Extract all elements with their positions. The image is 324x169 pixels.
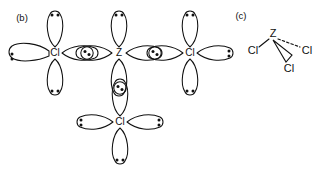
lone-pair-z-up <box>115 14 124 17</box>
atom-label-c-cl-right: Cl <box>302 44 312 56</box>
atom-label-c-cl-bottom: Cl <box>284 62 294 74</box>
bond-z-cl-left-plain <box>259 39 269 47</box>
bond-overlap-z-cl-right <box>149 47 161 59</box>
lobe-z-right-bonding <box>126 46 162 61</box>
atom-label-cl-right: Cl <box>185 47 194 58</box>
atom-cl-right: Cl <box>147 11 233 95</box>
figure-container: (b) Cl <box>0 0 324 169</box>
lone-pair-cl-right-right <box>228 50 231 58</box>
lobe-cl-left-up <box>47 11 62 47</box>
bond-overlap-z-cl-bottom <box>114 82 126 94</box>
lobe-cl-left-left <box>9 43 49 61</box>
lobe-cl-right-right <box>197 46 233 61</box>
panel-b-label: (b) <box>16 12 28 23</box>
lobe-cl-bottom-right <box>127 115 163 130</box>
atom-label-c-z: Z <box>270 27 277 39</box>
lobe-cl-bottom-down <box>112 128 127 164</box>
lobe-cl-bottom-left <box>77 115 113 130</box>
atom-label-cl-left: Cl <box>50 47 59 58</box>
atom-label-cl-bottom: Cl <box>115 116 124 127</box>
bond-overlap-cl-left-z <box>81 47 93 59</box>
atom-cl-left: Cl <box>9 11 98 95</box>
lobe-cl-left-down <box>47 59 62 95</box>
lone-pair-cl-right-down <box>186 90 195 93</box>
panel-c-group: (c) Z Cl Cl Cl <box>235 10 312 74</box>
lone-pair-cl-left-down <box>51 90 60 93</box>
atom-cl-bottom: Cl <box>77 79 163 164</box>
lone-pair-cl-bottom-down <box>116 159 125 162</box>
lobe-z-down-bonding <box>111 59 126 96</box>
chemistry-figure: (b) Cl <box>0 0 324 169</box>
lone-pair-cl-bottom-left <box>80 119 83 127</box>
lone-pair-cl-right-up <box>186 14 195 17</box>
lobe-cl-right-up <box>182 11 197 47</box>
lone-pair-cl-bottom-right <box>158 119 161 127</box>
atom-label-z-center: Z <box>116 47 122 58</box>
bond-z-cl-right-dashed <box>278 39 300 47</box>
panel-b-group: (b) Cl <box>9 11 233 164</box>
lone-pair-cl-left-up <box>51 14 60 17</box>
atom-label-c-cl-left: Cl <box>248 44 258 56</box>
lobe-z-up <box>111 11 126 47</box>
lobe-cl-right-down <box>182 59 197 95</box>
panel-c-label: (c) <box>235 10 246 21</box>
